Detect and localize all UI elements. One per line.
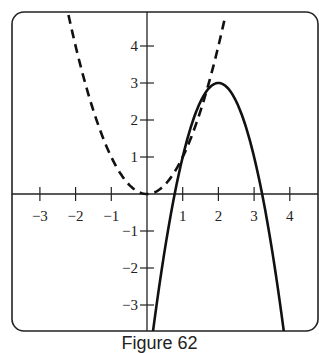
y-tick-label: 4 (131, 38, 139, 54)
x-tick-label: −1 (103, 208, 119, 224)
y-tick-label: −1 (122, 223, 138, 239)
y-tick-label: −3 (122, 297, 138, 313)
x-tick-label: 2 (215, 208, 223, 224)
x-tick-label: −2 (68, 208, 84, 224)
x-tick-label: 3 (250, 208, 258, 224)
x-tick-label: 4 (286, 208, 294, 224)
x-tick-label: −3 (32, 208, 48, 224)
y-tick-label: −2 (122, 260, 138, 276)
x-ticks: −3−2−11234 (32, 187, 294, 224)
figure-caption: Figure 62 (0, 333, 319, 353)
x-tick-label: 1 (179, 208, 187, 224)
y-tick-label: 2 (131, 112, 139, 128)
y-ticks: −3−2−11234 (122, 38, 154, 313)
plot-frame (12, 12, 318, 331)
y-tick-label: 1 (131, 149, 139, 165)
y-tick-label: 3 (131, 75, 139, 91)
